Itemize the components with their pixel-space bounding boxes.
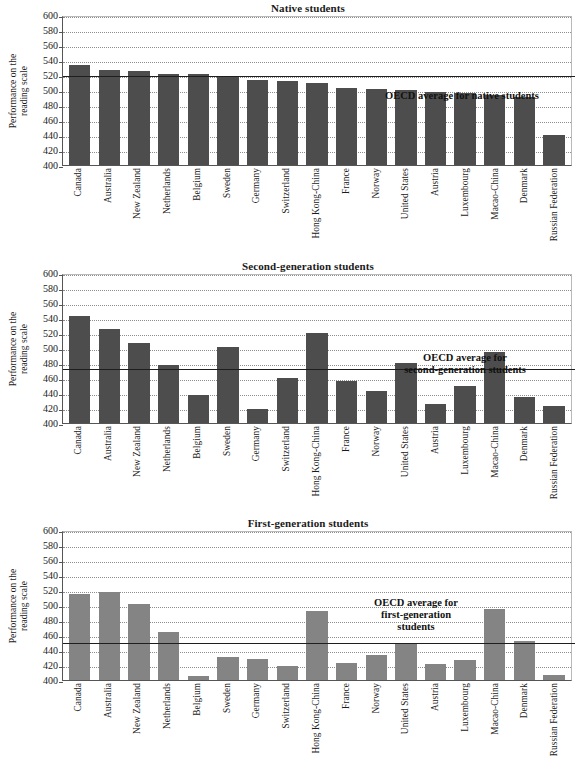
y-tick-label: 540 [18,56,58,66]
x-label-slot: Sweden [213,424,243,514]
x-tick-label: France [342,426,351,452]
bar[interactable] [425,664,446,680]
y-tick-label: 420 [18,404,58,414]
x-label-slot: Russian Federation [540,681,570,771]
bar[interactable] [99,329,120,423]
bar[interactable] [454,93,475,165]
x-label-slot: Switzerland [272,166,302,256]
y-axis-label-line1: Performance on the [8,312,18,386]
bar[interactable] [158,632,179,680]
bar-slot [154,17,184,165]
bar[interactable] [395,643,416,681]
oecd-average-label: OECD average forsecond-generation studen… [358,352,572,376]
bar-slot [65,532,95,680]
y-tick-label: 560 [18,299,58,309]
x-label-slot: Switzerland [272,424,302,514]
bar[interactable] [128,604,149,681]
y-tick-label: 420 [18,661,58,671]
x-label-slot: United States [391,424,421,514]
x-label-slot: Hong Kong-China [302,424,332,514]
bar-slot [243,532,273,680]
bar[interactable] [277,666,298,680]
bar[interactable] [99,592,120,680]
x-label-slot: France [332,424,362,514]
y-tick-label: 480 [18,101,58,111]
bar[interactable] [543,406,564,423]
bar-slot [332,275,362,423]
bar-slot [184,17,214,165]
bar[interactable] [99,70,120,165]
x-axis-labels: CanadaAustraliaNew ZealandNetherlandsBel… [62,166,572,256]
bar-slot [154,532,184,680]
bar[interactable] [514,97,535,165]
y-tick-label: 440 [18,131,58,141]
chart-panel-native-students: Native students Performance on the readi… [0,0,576,258]
bar[interactable] [277,81,298,165]
bar[interactable] [247,659,268,680]
chart-plot-area: Performance on the reading scale 4004204… [0,274,576,424]
x-label-slot: Sweden [213,166,243,256]
y-axis-label-line1: Performance on the [8,569,18,643]
bar[interactable] [158,365,179,423]
bar-slot [184,532,214,680]
bar[interactable] [336,663,357,680]
bar-slot [243,275,273,423]
bar[interactable] [425,404,446,423]
x-label-slot: Luxembourg [451,681,481,771]
x-label-slot: Germany [243,424,273,514]
x-tick-label: Russian Federation [550,168,559,241]
bar[interactable] [306,333,327,423]
bar[interactable] [543,675,564,680]
x-label-slot: Denmark [510,681,540,771]
bar[interactable] [366,391,387,423]
bar[interactable] [158,74,179,166]
bar[interactable] [366,655,387,680]
bar[interactable] [188,395,209,424]
x-tick-label: Hong Kong-China [312,168,321,238]
bar[interactable] [306,611,327,680]
bar[interactable] [217,76,238,165]
bar[interactable] [188,676,209,680]
bar[interactable] [69,65,90,165]
x-tick-label: Netherlands [164,683,173,729]
x-label-slot: Sweden [213,681,243,771]
x-label-slot: Austria [421,681,451,771]
x-tick-label: New Zealand [134,168,143,219]
bar-slot [391,275,421,423]
y-tick-label: 480 [18,616,58,626]
bar[interactable] [425,92,446,166]
x-label-slot: United States [391,166,421,256]
bar[interactable] [277,378,298,423]
bar[interactable] [514,397,535,423]
x-tick-label: United States [402,168,411,219]
bar[interactable] [217,657,238,680]
bar[interactable] [217,347,238,423]
bar[interactable] [188,74,209,165]
bar[interactable] [454,386,475,424]
bar[interactable] [543,135,564,165]
x-label-slot: Denmark [510,424,540,514]
x-label-slot: Germany [243,681,273,771]
x-tick-label: Macao-China [491,426,500,478]
x-label-slot: Hong Kong-China [302,166,332,256]
bar-slot [539,532,569,680]
x-label-slot: Australia [94,166,124,256]
bar[interactable] [454,660,475,680]
bar[interactable] [336,381,357,423]
y-tick-label: 460 [18,116,58,126]
bar[interactable] [128,343,149,423]
bar[interactable] [514,641,535,680]
bar[interactable] [69,594,90,680]
bar-slot [272,17,302,165]
bar[interactable] [247,409,268,423]
x-tick-label: Luxembourg [461,683,470,732]
x-tick-label: Luxembourg [461,426,470,475]
x-label-slot: Denmark [510,166,540,256]
bar[interactable] [128,71,149,166]
y-axis-ticks: 400420440460480500520540560580600 [18,16,58,166]
bar[interactable] [306,83,327,166]
x-tick-label: Denmark [521,683,530,718]
bar[interactable] [247,80,268,166]
bar[interactable] [484,95,505,166]
bar-slot [124,532,154,680]
